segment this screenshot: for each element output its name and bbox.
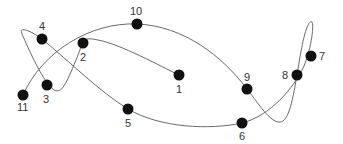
point-marker [237,118,248,129]
point-label: 9 [244,71,250,83]
point-label: 10 [130,5,142,17]
point-label: 6 [239,130,245,142]
point-label: 3 [43,93,49,105]
point-marker [242,84,253,95]
point-label: 5 [125,117,131,129]
point-label: 4 [39,20,45,32]
point-marker [132,19,143,30]
point-path-diagram: 1 2 3 4 5 6 7 8 9 10 11 [0,0,343,144]
point-6: 6 [237,118,248,143]
point-marker [42,80,53,91]
point-label: 2 [80,51,86,63]
point-1: 1 [174,70,185,96]
point-3: 3 [42,80,53,106]
point-5: 5 [123,104,134,130]
point-7: 7 [306,50,326,62]
point-marker [37,34,48,45]
point-marker [123,104,134,115]
point-10: 10 [130,5,143,30]
connecting-curve [21,22,313,127]
point-label: 8 [282,69,288,81]
point-4: 4 [37,20,48,45]
point-8: 8 [282,69,303,81]
point-2: 2 [78,38,89,64]
point-marker [174,70,185,81]
point-marker [306,51,317,62]
point-label: 7 [319,50,325,62]
point-9: 9 [242,71,253,95]
point-11: 11 [17,90,29,114]
point-marker [78,38,89,49]
point-marker [18,90,29,101]
point-label: 11 [17,101,28,113]
point-marker [292,70,303,81]
point-label: 1 [176,83,182,95]
